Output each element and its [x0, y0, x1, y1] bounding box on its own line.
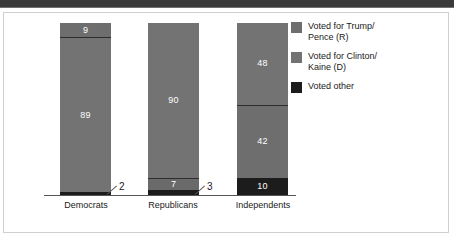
bar-independents[interactable]: 48 42 10	[237, 23, 288, 195]
category-label-democrats: Democrats	[55, 201, 117, 210]
legend-swatch-icon	[291, 82, 302, 93]
bar-segment-democrats-clinton-kaine: 89	[60, 38, 111, 191]
legend-item-label: Voted other	[308, 81, 354, 92]
bar-democrats[interactable]: 9 89 2	[60, 23, 111, 195]
segment-value-label: 89	[80, 111, 90, 120]
callout-value-republicans: 3	[207, 182, 213, 192]
bar-segment-democrats-trump-pence: 9	[60, 23, 111, 38]
legend-item-clinton-kaine[interactable]: Voted for Clinton/ Kaine (D)	[291, 51, 441, 72]
category-label-independents: Independents	[229, 201, 297, 210]
legend-item-trump-pence[interactable]: Voted for Trump/ Pence (R)	[291, 21, 441, 42]
segment-value-label: 10	[257, 182, 267, 191]
bar-segment-republicans-clinton-kaine: 7	[148, 178, 199, 190]
axis-baseline	[44, 195, 296, 196]
segment-value-label: 7	[171, 180, 176, 189]
bar-segment-republicans-trump-pence: 90	[148, 23, 199, 178]
legend-item-other[interactable]: Voted other	[291, 81, 441, 93]
segment-value-label: 90	[168, 96, 178, 105]
legend-item-label: Voted for Trump/ Pence (R)	[308, 21, 375, 42]
segment-value-label: 9	[83, 26, 88, 35]
chart-legend: Voted for Trump/ Pence (R) Voted for Cli…	[291, 21, 441, 102]
callout-value-democrats: 2	[119, 182, 125, 192]
bar-segment-independents-clinton-kaine: 42	[237, 106, 288, 178]
bar-segment-independents-other: 10	[237, 178, 288, 195]
segment-value-label: 42	[257, 137, 267, 146]
legend-item-label: Voted for Clinton/ Kaine (D)	[308, 51, 377, 72]
plot-area: 9 89 2 90 7 3 48	[0, 0, 454, 238]
bar-segment-independents-trump-pence: 48	[237, 23, 288, 106]
category-label-republicans: Republicans	[142, 201, 204, 210]
segment-value-label: 48	[257, 59, 267, 68]
legend-swatch-icon	[291, 22, 302, 33]
chart-figure: 9 89 2 90 7 3 48	[0, 0, 454, 238]
legend-swatch-icon	[291, 52, 302, 63]
bar-republicans[interactable]: 90 7 3	[148, 23, 199, 195]
